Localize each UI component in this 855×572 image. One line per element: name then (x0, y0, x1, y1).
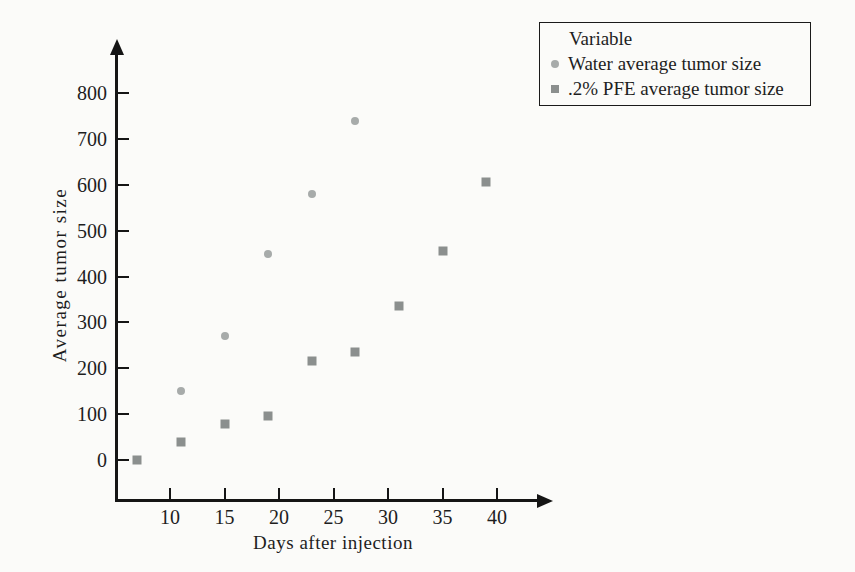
legend-item: Water average tumor size (540, 51, 810, 76)
y-tick-label: 700 (55, 128, 107, 150)
x-tick-label: 35 (433, 506, 453, 528)
x-tick (387, 488, 389, 500)
legend-item-label: .2% PFE average tumor size (568, 78, 784, 100)
legend-items-container: Water average tumor size.2% PFE average … (540, 51, 810, 101)
data-point-square (482, 178, 491, 187)
legend-item: .2% PFE average tumor size (540, 76, 810, 101)
y-tick-label: 500 (55, 220, 107, 242)
x-axis-title: Days after injection (253, 532, 413, 554)
scatter-plot-figure: Average tumor size Days after injection … (0, 0, 855, 572)
y-tick-label: 0 (55, 449, 107, 471)
y-tick-label: 600 (55, 174, 107, 196)
y-tick-label: 400 (55, 266, 107, 288)
y-tick (118, 413, 129, 415)
y-tick (118, 276, 129, 278)
data-point-square (133, 456, 142, 465)
data-point-circle (177, 387, 185, 395)
data-point-circle (221, 332, 229, 340)
data-point-square (351, 348, 360, 357)
x-tick (278, 488, 280, 500)
x-tick (442, 488, 444, 500)
y-axis-arrow-icon (110, 39, 124, 55)
data-point-circle (308, 190, 316, 198)
data-point-circle (351, 117, 359, 125)
data-point-circle (264, 250, 272, 258)
data-point-square (264, 412, 273, 421)
y-tick-label: 100 (55, 403, 107, 425)
data-point-square (220, 420, 229, 429)
y-tick-label: 300 (55, 311, 107, 333)
x-tick (333, 488, 335, 500)
legend-title: Variable (540, 26, 810, 51)
data-point-square (307, 357, 316, 366)
y-tick (118, 230, 129, 232)
y-tick (118, 184, 129, 186)
y-tick (118, 138, 129, 140)
x-tick (224, 488, 226, 500)
data-point-square (438, 247, 447, 256)
x-tick-label: 25 (324, 506, 344, 528)
x-tick-label: 40 (487, 506, 507, 528)
x-axis-arrow-icon (537, 494, 553, 508)
y-tick (118, 367, 129, 369)
x-tick (496, 488, 498, 500)
x-tick-label: 10 (160, 506, 180, 528)
x-tick-label: 15 (215, 506, 235, 528)
data-point-square (394, 302, 403, 311)
y-tick (118, 459, 129, 461)
x-tick-label: 30 (378, 506, 398, 528)
x-tick-label: 20 (269, 506, 289, 528)
legend-marker-circle-icon (551, 60, 559, 68)
legend: Variable Water average tumor size.2% PFE… (539, 22, 811, 106)
legend-item-label: Water average tumor size (568, 53, 761, 75)
y-tick (118, 92, 129, 94)
y-tick (118, 321, 129, 323)
x-axis-line (115, 499, 539, 502)
data-point-square (176, 437, 185, 446)
y-tick-label: 800 (55, 82, 107, 104)
x-tick (169, 488, 171, 500)
legend-marker-square-icon (551, 85, 559, 93)
y-tick-label: 200 (55, 357, 107, 379)
